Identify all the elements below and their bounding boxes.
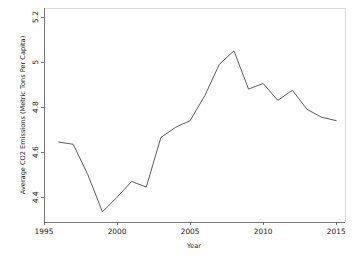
y-tick-label: 4.8 xyxy=(31,101,40,113)
y-tick-label: 5 xyxy=(31,59,40,64)
x-tick-label: 2010 xyxy=(254,227,273,236)
y-axis-title: Average CO2 Emissions (Metric Tons Per C… xyxy=(19,36,27,194)
co2-emissions-line-chart: 4.44.64.855.2 19952000200520102015 Avera… xyxy=(0,0,360,266)
x-tick-label: 2000 xyxy=(108,227,127,236)
x-axis-title: Year xyxy=(186,242,201,250)
x-tick-label: 2015 xyxy=(327,227,346,236)
x-tick-label: 1995 xyxy=(35,227,54,236)
y-tick-label: 4.4 xyxy=(31,191,40,203)
y-tick-label: 5.2 xyxy=(31,11,40,23)
y-tick-label: 4.6 xyxy=(31,146,40,158)
chart-figure: 4.44.64.855.2 19952000200520102015 Avera… xyxy=(0,0,360,266)
x-tick-label: 2005 xyxy=(181,227,200,236)
